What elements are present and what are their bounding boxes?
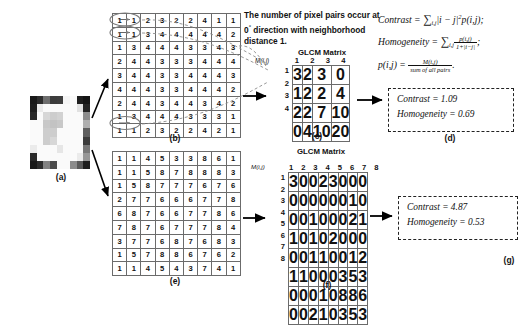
glcm-cell: 1 bbox=[289, 230, 299, 249]
glcm-cell: 0 bbox=[338, 192, 348, 211]
matrix-cell: 2 bbox=[113, 96, 127, 110]
matrix-cell: 8 bbox=[127, 220, 141, 234]
matrix-cell: 4 bbox=[169, 262, 183, 276]
matrix-cell: 2 bbox=[212, 124, 226, 138]
matrix-cell: 4 bbox=[212, 262, 226, 276]
image-pixel bbox=[70, 104, 77, 112]
matrix-cell: 5 bbox=[127, 179, 141, 193]
image-pixel bbox=[50, 145, 57, 153]
matrix-cell: 4 bbox=[155, 27, 169, 41]
matrix-cell: 1 bbox=[113, 248, 127, 262]
matrix-cell: 8 bbox=[212, 220, 226, 234]
caption-b: (b) bbox=[150, 133, 200, 143]
matrix-cell: 4 bbox=[183, 69, 197, 83]
image-pixel bbox=[63, 161, 70, 169]
matrix-cell: 4 bbox=[226, 220, 240, 234]
matrix-cell: 1 bbox=[113, 41, 127, 55]
glcm-cell: 0 bbox=[338, 211, 348, 230]
image-pixel bbox=[57, 128, 64, 136]
matrix-cell: 7 bbox=[169, 220, 183, 234]
matrix-cell: 1 bbox=[113, 262, 127, 276]
glcm-cell: 0 bbox=[298, 192, 308, 211]
image-pixel bbox=[63, 145, 70, 153]
matrix-cell: 4 bbox=[169, 41, 183, 55]
matrix-cell: 4 bbox=[183, 96, 197, 110]
image-pixel bbox=[37, 137, 44, 145]
matrix-row: 158777676 bbox=[113, 179, 241, 193]
result-box-g: Contrast = 4.87 Homogeneity = 0.53 bbox=[398, 196, 518, 240]
glcm-cell: 2 bbox=[308, 306, 318, 325]
matrix-row: 344334443 bbox=[113, 69, 241, 83]
gray-level-matrix-b: 1123224111134444421344433432443334443443… bbox=[112, 13, 241, 138]
image-pixel bbox=[57, 161, 64, 169]
matrix-cell: 8 bbox=[169, 248, 183, 262]
glcm-cell: 0 bbox=[289, 306, 299, 325]
glcm-cell: 0 bbox=[358, 192, 368, 211]
glcm-cell: 2 bbox=[302, 85, 312, 104]
glcm-row: 1224 bbox=[293, 85, 350, 104]
image-pixel bbox=[43, 112, 50, 120]
matrix-cell: 7 bbox=[198, 248, 212, 262]
matrix-cell: 2 bbox=[183, 14, 197, 28]
glcm-row: 3230 bbox=[293, 66, 350, 85]
glcm-column-header: 6 bbox=[346, 163, 358, 172]
glcm-cell: 5 bbox=[348, 306, 358, 325]
glcm-cell: 1 bbox=[289, 268, 299, 287]
image-pixel bbox=[37, 96, 44, 104]
glcm-cell: 1 bbox=[298, 268, 308, 287]
image-pixel bbox=[57, 120, 64, 128]
matrix-row: 157886762 bbox=[113, 248, 241, 262]
homogeneity-tail: ; bbox=[477, 36, 480, 47]
matrix-cell: 3 bbox=[113, 234, 127, 248]
matrix-cell: 1 bbox=[226, 124, 240, 138]
matrix-cell: 1 bbox=[113, 124, 127, 138]
matrix-cell: 4 bbox=[198, 14, 212, 28]
image-pixel bbox=[83, 112, 90, 120]
matrix-cell: 7 bbox=[141, 220, 155, 234]
image-pixel bbox=[57, 96, 64, 104]
matrix-cell: 3 bbox=[141, 27, 155, 41]
contrast-tail: p(i,j); bbox=[462, 14, 484, 25]
image-pixel bbox=[57, 145, 64, 153]
glcm-cell: 2 bbox=[293, 104, 303, 123]
matrix-cell: 4 bbox=[183, 82, 197, 96]
glcm-column-header: 7 bbox=[358, 163, 370, 172]
probability-formula: p(i,j) = M(i,j)sum of all pairs. bbox=[378, 58, 520, 73]
glcm-cell: 2 bbox=[348, 211, 358, 230]
note-line-2b: direction with bbox=[253, 24, 307, 34]
matrix-cell: 7 bbox=[198, 220, 212, 234]
matrix-cell: 6 bbox=[226, 207, 240, 221]
image-pixel bbox=[57, 104, 64, 112]
matrix-cell: 1 bbox=[127, 27, 141, 41]
original-image-patch bbox=[30, 96, 90, 169]
matrix-cell: 3 bbox=[198, 41, 212, 55]
matrix-cell: 1 bbox=[226, 152, 240, 166]
matrix-cell: 3 bbox=[183, 152, 197, 166]
glcm-cell: 0 bbox=[338, 230, 348, 249]
caption-d: (d) bbox=[432, 133, 468, 143]
glcm-row: 00210353 bbox=[289, 306, 368, 325]
image-pixel bbox=[63, 96, 70, 104]
glcm-column-header: 4 bbox=[336, 56, 352, 65]
glcm-row: 30023000 bbox=[289, 173, 368, 192]
matrix-row: 787677784 bbox=[113, 220, 241, 234]
contrast-result-d-value: 1.09 bbox=[441, 94, 457, 104]
matrix-cell: 4 bbox=[198, 69, 212, 83]
matrix-cell: 1 bbox=[113, 152, 127, 166]
matrix-cell: 3 bbox=[169, 152, 183, 166]
matrix-cell: 1 bbox=[212, 14, 226, 28]
homogeneity-result-g-label: Homogeneity bbox=[407, 217, 457, 227]
glcm-row-header: 4 bbox=[276, 103, 292, 116]
matrix-cell: 7 bbox=[183, 179, 197, 193]
matrix-cell: 4 bbox=[141, 262, 155, 276]
glcm-cell: 20 bbox=[331, 123, 350, 142]
image-pixel bbox=[43, 153, 50, 161]
glcm-row-header: 1 bbox=[276, 65, 292, 78]
glcm-cell: 0 bbox=[298, 287, 308, 306]
glcm-c-axis-label: M(i,j) bbox=[255, 57, 269, 64]
glcm-cell: 8 bbox=[348, 287, 358, 306]
matrix-cell: 6 bbox=[212, 152, 226, 166]
glcm-cell: 0 bbox=[331, 66, 350, 85]
glcm-cell: 0 bbox=[289, 249, 299, 268]
matrix-cell: 4 bbox=[212, 69, 226, 83]
